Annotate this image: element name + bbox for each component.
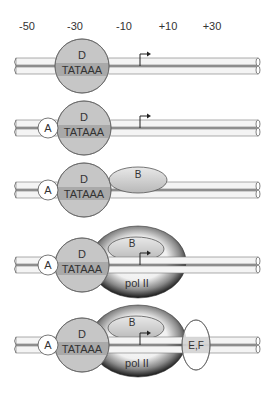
tfiib-complex: B [108, 316, 164, 340]
pol-ii-label: pol II [125, 277, 149, 289]
tfiia-label: A [44, 184, 52, 196]
tfiia-complex: A [38, 255, 58, 275]
step-1: D TATAAA [15, 39, 261, 93]
tfiid-label: D [80, 111, 88, 123]
step-5: B pol II D TATAAA A E,F [15, 305, 261, 377]
tfiia-complex: A [38, 335, 58, 355]
tfiid-complex: D TATAAA [55, 39, 109, 93]
tfiib-complex: B [109, 167, 167, 193]
tfiid-complex: D TATAAA [55, 238, 109, 292]
tfiia-complex: A [38, 118, 58, 138]
step-4: B pol II D TATAAA A [15, 226, 261, 298]
tata-box-label: TATAAA [62, 64, 103, 76]
tfiia-label: A [44, 122, 52, 134]
tfiid-label: D [78, 49, 86, 61]
tfiib-label: B [135, 169, 142, 180]
tfiie-f-label: E,F [188, 340, 204, 351]
tata-box-label: TATAAA [62, 263, 103, 275]
tfiid-complex: D TATAAA [57, 101, 111, 155]
tfiid-label: D [80, 173, 88, 185]
tfiid-complex: D TATAAA [55, 318, 109, 372]
tata-box-label: TATAAA [62, 343, 103, 355]
dna-strand [15, 58, 261, 74]
assembly-diagram: D TATAAA D TATAAA A B D TATAAA [0, 0, 271, 407]
tfiib-label: B [129, 317, 136, 328]
tfiia-complex: A [38, 180, 58, 200]
tata-box-label: TATAAA [64, 188, 105, 200]
step-3: B D TATAAA A [15, 163, 261, 217]
step-2: D TATAAA A [15, 101, 261, 155]
tfiid-label: D [78, 328, 86, 340]
pol-ii-label: pol II [125, 357, 149, 369]
tfiib-label: B [129, 238, 136, 249]
tfiid-complex: D TATAAA [57, 163, 111, 217]
tfiia-label: A [44, 259, 52, 271]
tfiie-f-complex: E,F [182, 320, 210, 370]
tfiid-label: D [78, 248, 86, 260]
tata-box-label: TATAAA [64, 126, 105, 138]
tfiia-label: A [44, 339, 52, 351]
